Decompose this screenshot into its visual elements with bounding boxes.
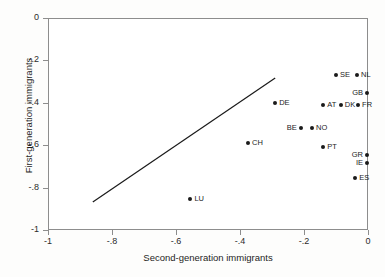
data-point-label-ch: CH <box>252 139 263 147</box>
data-point-at <box>321 103 325 107</box>
data-point-label-es: ES <box>359 174 369 182</box>
data-point-nl <box>355 73 359 77</box>
x-axis-label: Second-generation immigrants <box>48 252 368 263</box>
data-point-label-gb: GB <box>352 89 367 97</box>
data-point-label-fr: FR <box>362 101 372 109</box>
data-point-label-ie: IE <box>356 159 367 167</box>
data-point-label-no: NO <box>316 124 327 132</box>
data-point-de <box>273 101 277 105</box>
y-axis-label: First-generation immigrants <box>23 36 34 196</box>
data-point-label-se: SE <box>340 71 350 79</box>
data-point-label-at: AT <box>327 101 336 109</box>
data-point-fr <box>356 103 360 107</box>
data-point-label-pt: PT <box>327 143 337 151</box>
data-point-pt <box>321 145 325 149</box>
data-point-label-lu: LU <box>194 195 204 203</box>
data-point-lu <box>188 197 192 201</box>
data-point-dk <box>339 103 343 107</box>
data-point-ch <box>246 141 250 145</box>
data-point-label-de: DE <box>279 99 289 107</box>
scatter-plot-figure: 0-.2-.4-.6-.8-1 -1-.8-.6-.4-.20 SENLGBDE… <box>0 0 385 277</box>
data-point-label-be: BE <box>287 124 301 132</box>
data-point-no <box>310 126 314 130</box>
data-point-label-dk: DK <box>345 101 355 109</box>
data-point-se <box>334 73 338 77</box>
plot-data-area: SENLGBDEATDKFRBENOCHPTGRIEESLU <box>48 18 368 230</box>
data-point-label-nl: NL <box>361 71 371 79</box>
data-point-es <box>353 176 357 180</box>
